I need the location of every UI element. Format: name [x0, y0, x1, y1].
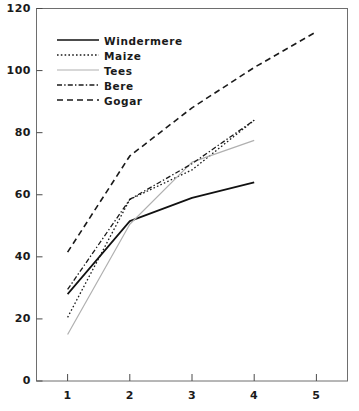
- series-line-bere: [68, 120, 255, 289]
- legend-label-maize: Maize: [104, 50, 141, 62]
- line-chart: 020406080100120 12345 Windermere Maize T…: [0, 0, 359, 411]
- x-axis-ticks: [68, 374, 317, 381]
- legend-label-windermere: Windermere: [104, 35, 183, 47]
- y-tick-label: 120: [0, 2, 31, 15]
- legend-label-gogar: Gogar: [104, 95, 143, 107]
- x-tick-label: 1: [48, 389, 88, 402]
- y-axis-ticks: [37, 9, 43, 382]
- x-tick-label: 4: [234, 389, 274, 402]
- legend-label-bere: Bere: [104, 80, 134, 92]
- x-tick-label: 3: [172, 389, 212, 402]
- x-tick-label: 2: [110, 389, 150, 402]
- series-line-tees: [68, 140, 255, 334]
- y-tick-label: 0: [0, 374, 31, 387]
- x-tick-label: 5: [296, 389, 336, 402]
- y-tick-label: 20: [0, 312, 31, 325]
- y-tick-label: 40: [0, 250, 31, 263]
- legend-line-samples: [57, 40, 99, 100]
- plot-frame: [37, 9, 348, 382]
- y-tick-label: 100: [0, 64, 31, 77]
- y-tick-label: 80: [0, 126, 31, 139]
- series-line-windermere: [68, 182, 255, 294]
- y-tick-label: 60: [0, 188, 31, 201]
- plot-canvas: [0, 0, 359, 411]
- legend-label-tees: Tees: [104, 65, 133, 77]
- data-series-group: [68, 32, 317, 335]
